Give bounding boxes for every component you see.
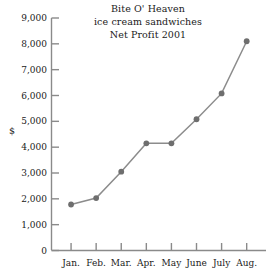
- x-axis-tick-label: Aug.: [227, 258, 267, 268]
- data-point-marker: [68, 202, 74, 208]
- x-axis-ticks: [71, 243, 247, 251]
- data-point-markers: [68, 38, 249, 207]
- data-point-marker: [93, 195, 99, 201]
- data-point-marker: [118, 169, 124, 175]
- data-point-marker: [169, 140, 175, 146]
- plot-area: [0, 0, 272, 278]
- data-point-marker: [219, 91, 225, 97]
- data-point-marker: [244, 38, 250, 44]
- data-point-marker: [143, 140, 149, 146]
- chart-container: Bite O' Heaven ice cream sandwiches Net …: [0, 0, 272, 278]
- data-line-series: [71, 41, 247, 204]
- data-point-marker: [194, 116, 200, 122]
- y-axis-ticks: [52, 18, 60, 251]
- axes: [52, 18, 267, 251]
